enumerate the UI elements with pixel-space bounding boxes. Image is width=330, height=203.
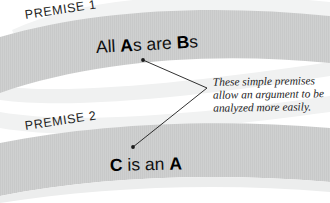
term-a-premise2: A [169,153,182,173]
premise2-statement: C is an A [110,153,182,176]
leader-dot-premise2 [131,145,135,149]
figure-canvas: PREMISE 1 All As are Bs PREMISE 2 C is a… [0,0,330,203]
annotation-callout: These simple premises allow an argument … [213,74,329,115]
term-c-premise2: C [110,155,123,175]
leader-dot-premise1 [141,58,145,62]
term-a-premise1: A [120,35,134,56]
annotation-line-3: analyzed more easily. [213,101,328,116]
